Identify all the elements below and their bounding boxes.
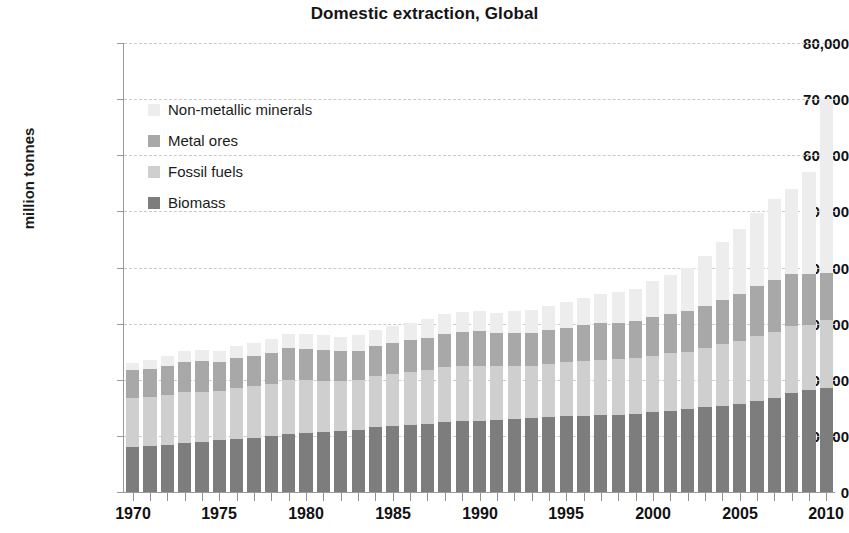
bar-segment[interactable] xyxy=(802,390,815,492)
bar-column[interactable] xyxy=(664,43,677,492)
bar-segment[interactable] xyxy=(716,242,729,299)
bar-segment[interactable] xyxy=(213,391,226,440)
bar-column[interactable] xyxy=(490,43,503,492)
bar-segment[interactable] xyxy=(750,286,763,336)
bar-segment[interactable] xyxy=(230,388,243,439)
bar-segment[interactable] xyxy=(646,281,659,317)
bar-segment[interactable] xyxy=(143,446,156,492)
bar-segment[interactable] xyxy=(334,337,347,352)
bar-segment[interactable] xyxy=(404,425,417,492)
bar-segment[interactable] xyxy=(438,367,451,421)
bar-segment[interactable] xyxy=(438,334,451,368)
bar-segment[interactable] xyxy=(802,274,815,325)
bar-segment[interactable] xyxy=(750,213,763,286)
bar-segment[interactable] xyxy=(594,360,607,416)
bar-segment[interactable] xyxy=(612,292,625,322)
bar-segment[interactable] xyxy=(299,334,312,349)
bar-segment[interactable] xyxy=(733,404,746,492)
bar-segment[interactable] xyxy=(352,351,365,381)
bar-segment[interactable] xyxy=(213,362,226,391)
bar-segment[interactable] xyxy=(768,280,781,332)
bar-segment[interactable] xyxy=(629,289,642,322)
bar-segment[interactable] xyxy=(733,341,746,404)
bar-segment[interactable] xyxy=(265,384,278,436)
bar-segment[interactable] xyxy=(664,275,677,314)
bar-segment[interactable] xyxy=(369,346,382,377)
bar-segment[interactable] xyxy=(698,348,711,407)
bar-segment[interactable] xyxy=(542,417,555,492)
bar-segment[interactable] xyxy=(577,325,590,360)
bar-segment[interactable] xyxy=(299,433,312,492)
bar-segment[interactable] xyxy=(456,332,469,366)
bar-segment[interactable] xyxy=(456,312,469,332)
bar-segment[interactable] xyxy=(577,361,590,416)
bar-segment[interactable] xyxy=(299,349,312,380)
bar-segment[interactable] xyxy=(525,310,538,332)
bar-segment[interactable] xyxy=(820,99,833,272)
bar-segment[interactable] xyxy=(178,351,191,362)
bar-segment[interactable] xyxy=(629,414,642,492)
bar-segment[interactable] xyxy=(768,199,781,280)
bar-segment[interactable] xyxy=(542,364,555,417)
bar-segment[interactable] xyxy=(334,351,347,381)
bar-segment[interactable] xyxy=(698,407,711,492)
bar-segment[interactable] xyxy=(473,311,486,332)
bar-segment[interactable] xyxy=(508,311,521,332)
bar-segment[interactable] xyxy=(716,406,729,492)
bar-segment[interactable] xyxy=(456,421,469,492)
bar-segment[interactable] xyxy=(404,340,417,372)
bar-segment[interactable] xyxy=(334,431,347,492)
bar-segment[interactable] xyxy=(352,335,365,350)
bar-segment[interactable] xyxy=(490,333,503,366)
bar-segment[interactable] xyxy=(247,356,260,386)
bar-segment[interactable] xyxy=(265,436,278,492)
bar-segment[interactable] xyxy=(577,416,590,492)
bar-segment[interactable] xyxy=(247,343,260,356)
bar-segment[interactable] xyxy=(195,350,208,361)
bar-segment[interactable] xyxy=(247,438,260,492)
bar-segment[interactable] xyxy=(542,330,555,364)
bar-segment[interactable] xyxy=(577,298,590,325)
bar-segment[interactable] xyxy=(698,306,711,349)
bar-segment[interactable] xyxy=(438,314,451,334)
bar-segment[interactable] xyxy=(560,328,573,363)
bar-segment[interactable] xyxy=(768,398,781,492)
bar-segment[interactable] xyxy=(698,256,711,305)
bar-segment[interactable] xyxy=(421,370,434,423)
bar-segment[interactable] xyxy=(664,314,677,353)
bar-segment[interactable] xyxy=(820,273,833,320)
bar-column[interactable] xyxy=(612,43,625,492)
bar-segment[interactable] xyxy=(195,361,208,391)
bar-segment[interactable] xyxy=(317,432,330,492)
bar-segment[interactable] xyxy=(646,317,659,356)
bar-segment[interactable] xyxy=(646,412,659,492)
bar-column[interactable] xyxy=(785,43,798,492)
bar-segment[interactable] xyxy=(473,421,486,492)
bar-segment[interactable] xyxy=(716,344,729,405)
bar-segment[interactable] xyxy=(716,300,729,345)
bar-segment[interactable] xyxy=(612,415,625,492)
bar-segment[interactable] xyxy=(369,376,382,427)
bar-segment[interactable] xyxy=(161,395,174,445)
bar-column[interactable] xyxy=(750,43,763,492)
bar-column[interactable] xyxy=(820,43,833,492)
bar-segment[interactable] xyxy=(126,370,139,398)
bar-segment[interactable] xyxy=(802,325,815,390)
bar-column[interactable] xyxy=(508,43,521,492)
bar-segment[interactable] xyxy=(161,356,174,366)
bar-segment[interactable] xyxy=(594,415,607,492)
bar-segment[interactable] xyxy=(317,350,330,381)
bar-segment[interactable] xyxy=(508,333,521,366)
bar-segment[interactable] xyxy=(733,294,746,341)
bar-column[interactable] xyxy=(646,43,659,492)
bar-segment[interactable] xyxy=(282,434,295,492)
bar-segment[interactable] xyxy=(143,397,156,446)
bar-segment[interactable] xyxy=(386,343,399,374)
bar-segment[interactable] xyxy=(490,366,503,420)
bar-column[interactable] xyxy=(560,43,573,492)
bar-segment[interactable] xyxy=(681,409,694,492)
bar-column[interactable] xyxy=(716,43,729,492)
bar-segment[interactable] xyxy=(560,362,573,416)
bar-segment[interactable] xyxy=(612,359,625,415)
bar-segment[interactable] xyxy=(178,362,191,392)
